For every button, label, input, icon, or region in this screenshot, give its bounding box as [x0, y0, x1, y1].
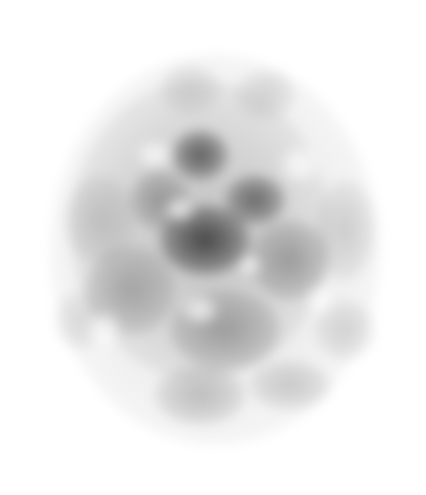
- noise-cloud: [0, 0, 426, 495]
- cloud-blob: [235, 70, 295, 120]
- cloud-highlight: [89, 312, 121, 348]
- cloud-blob: [225, 175, 285, 225]
- cloud-blob: [250, 360, 330, 410]
- cloud-blob: [160, 65, 220, 115]
- cloud-blob: [315, 180, 375, 280]
- cloud-blob: [172, 130, 228, 180]
- cloud-highlight: [137, 141, 173, 169]
- cloud-blob: [155, 365, 245, 425]
- cloud-blob: [65, 175, 135, 265]
- cloud-highlight: [306, 284, 334, 316]
- cloud-highlight: [165, 198, 195, 222]
- cloud-highlight: [182, 296, 218, 324]
- cloud-highlight: [238, 255, 262, 275]
- cloud-highlight: [280, 147, 320, 183]
- cloud-texture-image: [0, 0, 426, 495]
